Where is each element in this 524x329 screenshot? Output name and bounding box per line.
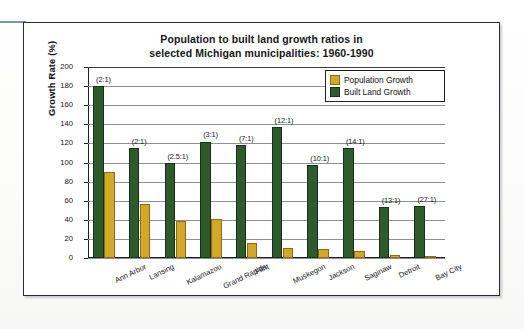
y-tick-label: 140 — [45, 119, 73, 128]
y-tick-label: 60 — [45, 196, 73, 205]
y-tick-label: 100 — [45, 158, 73, 167]
legend-label: Built Land Growth — [344, 87, 411, 97]
legend-swatch-icon — [330, 87, 340, 97]
bar-population-growth — [283, 248, 294, 259]
y-tick-label: 40 — [45, 215, 73, 224]
gridline — [88, 258, 445, 259]
bar-built-land-growth — [307, 165, 318, 258]
chart-title-line-1: Population to built land growth ratios i… — [23, 33, 500, 47]
ratio-annotation: (14:1) — [346, 137, 365, 146]
legend-item-built_land: Built Land Growth — [330, 86, 440, 98]
y-tick-mark — [84, 239, 88, 240]
y-tick-mark — [84, 124, 88, 125]
bar-built-land-growth — [129, 148, 140, 258]
bar-built-land-growth — [165, 163, 176, 259]
y-tick-mark — [84, 105, 88, 106]
bar-population-growth — [104, 172, 115, 258]
ratio-annotation: (13:1) — [382, 196, 401, 205]
y-tick-label: 180 — [45, 81, 73, 90]
chart-legend: Population GrowthBuilt Land Growth — [325, 70, 445, 102]
bar-population-growth — [211, 219, 222, 258]
gridline — [88, 67, 445, 68]
y-tick-label: 0 — [45, 253, 73, 262]
ratio-annotation: (2:1) — [132, 137, 147, 146]
y-tick-mark — [84, 67, 88, 68]
bar-population-growth — [140, 204, 151, 258]
y-tick-mark — [84, 258, 88, 259]
bar-population-growth — [318, 249, 329, 258]
y-tick-label: 20 — [45, 234, 73, 243]
bar-built-land-growth — [200, 142, 211, 259]
y-tick-label: 120 — [45, 138, 73, 147]
bar-built-land-growth — [272, 127, 283, 258]
bar-population-growth — [176, 221, 187, 258]
ratio-annotation: (3:1) — [203, 130, 218, 139]
y-tick-mark — [84, 86, 88, 87]
ratio-annotation: (2:1) — [96, 75, 111, 84]
legend-swatch-icon — [330, 75, 340, 85]
ratio-annotation: (27:1) — [417, 195, 436, 204]
y-tick-label: 160 — [45, 100, 73, 109]
bar-population-growth — [247, 243, 258, 258]
ratio-annotation: (12:1) — [275, 116, 294, 125]
gridline — [88, 182, 445, 183]
legend-label: Population Growth — [344, 75, 413, 85]
bar-built-land-growth — [379, 207, 390, 258]
gridline — [88, 124, 445, 125]
y-tick-mark — [84, 201, 88, 202]
gridline — [88, 105, 445, 106]
y-tick-label: 200 — [45, 62, 73, 71]
y-tick-mark — [84, 163, 88, 164]
bar-built-land-growth — [343, 148, 354, 258]
chart-title: Population to built land growth ratios i… — [23, 33, 500, 60]
bar-population-growth — [425, 256, 436, 258]
y-tick-mark — [84, 182, 88, 183]
bar-built-land-growth — [236, 145, 247, 258]
ratio-annotation: (2.5:1) — [168, 152, 189, 161]
y-tick-mark — [84, 143, 88, 144]
bar-population-growth — [354, 251, 365, 258]
y-tick-mark — [84, 220, 88, 221]
legend-item-population: Population Growth — [330, 74, 440, 86]
bar-population-growth — [390, 255, 401, 258]
ratio-annotation: (7:1) — [239, 134, 254, 143]
gridline — [88, 163, 445, 164]
chart-title-line-2: selected Michigan municipalities: 1960-1… — [23, 47, 500, 61]
y-tick-label: 80 — [45, 177, 73, 186]
bar-built-land-growth — [414, 206, 425, 258]
bar-built-land-growth — [93, 86, 104, 258]
ratio-annotation: (10:1) — [310, 154, 329, 163]
